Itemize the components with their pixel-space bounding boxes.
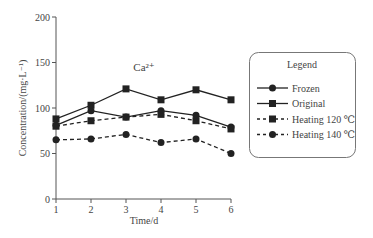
legend-title: Legend xyxy=(287,59,317,70)
series-original xyxy=(53,85,235,122)
x-tick-label: 3 xyxy=(124,204,129,215)
series-line xyxy=(56,134,231,153)
x-axis: 123456 xyxy=(54,199,234,215)
y-tick-label: 150 xyxy=(35,57,50,68)
circle-marker xyxy=(269,131,276,138)
plot-series xyxy=(53,85,235,157)
circle-marker xyxy=(158,139,165,146)
x-tick-label: 2 xyxy=(89,204,94,215)
x-tick-label: 1 xyxy=(54,204,59,215)
series-line xyxy=(56,114,231,129)
circle-marker xyxy=(269,85,276,92)
y-tick-label: 50 xyxy=(40,148,50,159)
square-marker xyxy=(53,123,60,130)
y-tick-label: 100 xyxy=(35,103,50,114)
circle-marker xyxy=(123,131,130,138)
square-marker xyxy=(269,100,276,107)
x-tick-label: 5 xyxy=(194,204,199,215)
legend: Legend FrozenOriginalHeating 120 ℃Heatin… xyxy=(250,53,356,158)
series-heating-140 xyxy=(53,131,235,157)
chart-title: Ca²⁺ xyxy=(133,61,155,73)
legend-label: Heating 140 ℃ xyxy=(292,129,355,140)
square-marker xyxy=(158,111,165,118)
square-marker xyxy=(53,115,60,122)
legend-label: Original xyxy=(292,98,326,109)
square-marker xyxy=(228,125,235,132)
series-frozen xyxy=(53,107,235,130)
y-tick-label: 0 xyxy=(45,194,50,205)
square-marker xyxy=(123,85,130,92)
square-marker xyxy=(123,114,130,121)
square-marker xyxy=(88,117,95,124)
x-tick-label: 4 xyxy=(159,204,164,215)
legend-label: Heating 120 ℃ xyxy=(292,114,355,125)
square-marker xyxy=(193,86,200,93)
x-tick-label: 6 xyxy=(229,204,234,215)
series-line xyxy=(56,111,231,127)
x-axis-title: Time/d xyxy=(130,215,159,226)
circle-marker xyxy=(88,135,95,142)
circle-marker xyxy=(193,135,200,142)
legend-label: Frozen xyxy=(292,83,320,94)
square-marker xyxy=(158,96,165,103)
y-axis-title: Concentration/(mg·L⁻¹) xyxy=(17,60,29,157)
circle-marker xyxy=(228,150,235,157)
square-marker xyxy=(193,117,200,124)
square-marker xyxy=(228,96,235,103)
square-marker xyxy=(88,102,95,109)
square-marker xyxy=(269,116,276,123)
circle-marker xyxy=(53,136,60,143)
line-chart: 050100150200 123456 Ca²⁺ Time/d Concentr… xyxy=(0,0,373,238)
y-tick-label: 200 xyxy=(35,12,50,23)
y-axis: 050100150200 xyxy=(35,12,56,205)
